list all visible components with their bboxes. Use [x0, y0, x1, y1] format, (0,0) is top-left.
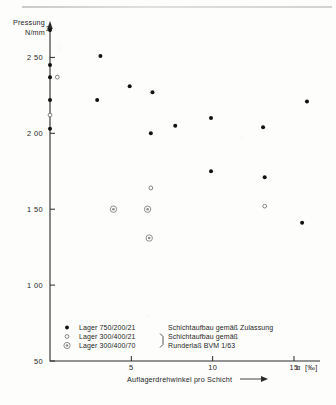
- data-point-0-7: [128, 84, 132, 88]
- legend-label-0: Lager 750/200/21: [79, 324, 135, 332]
- data-point-2-2-core: [148, 237, 151, 240]
- y-axis-label-line1: Pressung: [13, 18, 45, 27]
- legend-label-2: Lager 300/400/70: [79, 342, 135, 350]
- x-axis-unit-bracket: [‰]: [305, 363, 318, 372]
- y-tick-label-1: 1 00: [27, 281, 43, 290]
- legend-grouping-brace: [160, 334, 163, 348]
- legend-marker-filled-dot: [65, 326, 69, 330]
- data-point-2-0-core: [112, 208, 115, 211]
- data-point-1-1: [48, 113, 52, 117]
- data-point-0-12: [261, 125, 265, 129]
- data-point-1-2: [149, 186, 153, 190]
- series-lager-300-400-70: [110, 206, 152, 241]
- data-point-0-2: [48, 75, 52, 79]
- y-tick-label-4: 2 50: [27, 53, 43, 62]
- legend-description-0: Schichtaufbau gemäß Zulassung: [168, 324, 273, 332]
- data-point-0-8: [150, 90, 154, 94]
- x-axis-ticks: 51015: [129, 356, 298, 372]
- data-point-0-9: [149, 131, 153, 135]
- data-point-0-1: [48, 63, 52, 67]
- data-point-0-4: [48, 127, 52, 131]
- data-point-0-10: [173, 124, 177, 128]
- y-tick-label-3: 2 00: [27, 129, 43, 138]
- y-tick-label-2: 1 50: [27, 205, 43, 214]
- legend-marker-double-circle-inner: [66, 344, 69, 347]
- figure-canvas: Pressung N/mm 2 501 001 502 002 50 51015…: [0, 0, 336, 405]
- legend-marker-open-circle: [65, 335, 69, 339]
- y-tick-label-0: 50: [34, 357, 43, 366]
- data-point-0-15: [305, 99, 309, 103]
- data-point-0-14: [263, 175, 267, 179]
- x-axis-unit-symbol: α: [296, 363, 301, 372]
- data-point-0-3: [48, 98, 52, 102]
- data-point-0-6: [95, 98, 99, 102]
- legend-description-1: Schichtaufbau gemäß: [168, 333, 238, 341]
- data-point-0-0: [48, 28, 52, 32]
- data-point-0-13: [209, 169, 213, 173]
- x-tick-label-0: 5: [129, 363, 134, 372]
- scatter-chart: Pressung N/mm 2 501 001 502 002 50 51015…: [0, 0, 336, 405]
- legend: Lager 750/200/21 Lager 300/400/21 Lager …: [64, 324, 273, 350]
- y-axis-label-line2: N/mm: [25, 28, 45, 37]
- legend-description-2: Runderlaß BVM 1/63: [168, 342, 235, 349]
- data-point-0-16: [300, 221, 304, 225]
- data-point-1-0: [55, 75, 59, 79]
- series-lager-750-200-21: [48, 28, 309, 225]
- series-lager-300-400-21: [48, 75, 266, 208]
- axis-lines: [50, 24, 320, 361]
- data-point-2-1-core: [146, 208, 149, 211]
- data-point-0-11: [209, 116, 213, 120]
- x-axis-arrow: [261, 376, 268, 382]
- data-point-0-5: [98, 54, 102, 58]
- data-point-1-3: [263, 204, 267, 208]
- x-tick-label-1: 10: [208, 363, 217, 372]
- x-axis-label: Auflagerdrehwinkel pro Schicht: [127, 375, 232, 384]
- legend-label-1: Lager 300/400/21: [79, 333, 135, 341]
